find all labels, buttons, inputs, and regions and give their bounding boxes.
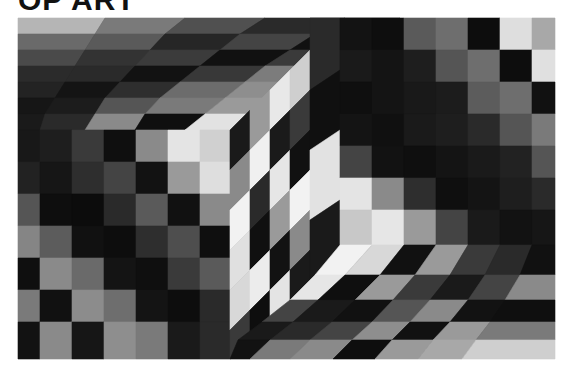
painting-cell — [136, 130, 168, 162]
painting-cell — [532, 18, 555, 50]
painting-cell — [340, 50, 372, 82]
painting-cell — [372, 146, 404, 178]
painting-cell — [404, 146, 436, 178]
painting-cell — [168, 322, 200, 359]
painting-cell — [40, 226, 72, 258]
painting-cell — [532, 114, 555, 146]
painting-cell — [72, 226, 104, 258]
painting-cell — [168, 162, 200, 194]
painting-cell — [18, 34, 95, 50]
painting-cell — [104, 290, 136, 322]
painting-cell — [404, 50, 436, 82]
painting-cell — [104, 258, 136, 290]
painting-cell — [500, 18, 532, 50]
painting-cell — [18, 194, 40, 226]
painting-cell — [404, 82, 436, 114]
painting-cell — [136, 194, 168, 226]
painting-cell — [436, 210, 468, 245]
painting-cell — [18, 322, 40, 359]
painting-cell — [436, 178, 468, 210]
painting-cell — [404, 18, 436, 50]
painting-cell — [136, 322, 168, 359]
painting-cell — [436, 50, 468, 82]
painting-cell — [72, 162, 104, 194]
painting-cells — [18, 18, 555, 359]
painting-cell — [168, 258, 200, 290]
painting-cell — [340, 18, 372, 50]
painting-cell — [18, 258, 40, 290]
painting-cell — [72, 194, 104, 226]
painting-cell — [340, 146, 372, 178]
painting-cell — [372, 114, 404, 146]
painting-cell — [340, 178, 372, 210]
painting-cell — [404, 114, 436, 146]
painting-cell — [404, 178, 436, 210]
painting-cell — [72, 322, 104, 359]
painting-cell — [168, 130, 200, 162]
painting-cell — [372, 82, 404, 114]
painting-cell — [340, 210, 372, 245]
painting-cell — [200, 290, 230, 322]
painting-cell — [468, 210, 500, 245]
painting-cell — [200, 194, 230, 226]
painting-cell — [340, 114, 372, 146]
painting-cell — [18, 18, 105, 34]
painting-cell — [532, 146, 555, 178]
painting-cell — [404, 210, 436, 245]
painting-cell — [500, 82, 532, 114]
op-art-painting — [0, 0, 571, 380]
painting-cell — [18, 50, 85, 66]
painting-cell — [168, 194, 200, 226]
painting-cell — [500, 178, 532, 210]
painting-cell — [200, 322, 230, 359]
painting-cell — [136, 258, 168, 290]
painting-cell — [104, 322, 136, 359]
painting-cell — [468, 18, 500, 50]
painting-cell — [136, 162, 168, 194]
painting-cell — [72, 130, 104, 162]
painting-cell — [40, 290, 72, 322]
painting-cell — [468, 50, 500, 82]
painting-cell — [200, 162, 230, 194]
painting-cell — [468, 146, 500, 178]
painting-cell — [532, 50, 555, 82]
painting-cell — [72, 258, 104, 290]
painting-cell — [200, 226, 230, 258]
painting-cell — [18, 226, 40, 258]
painting-cell — [40, 322, 72, 359]
painting-cell — [476, 322, 555, 340]
painting-cell — [168, 226, 200, 258]
painting-cell — [40, 130, 72, 162]
painting-cell — [45, 98, 105, 114]
painting-cell — [500, 146, 532, 178]
painting-cell — [436, 82, 468, 114]
painting-cell — [500, 50, 532, 82]
painting-cell — [372, 18, 404, 50]
painting-cell — [532, 210, 555, 245]
painting-cell — [500, 114, 532, 146]
painting-cell — [468, 114, 500, 146]
painting-cell — [436, 146, 468, 178]
painting-cell — [462, 340, 555, 359]
painting-cell — [18, 290, 40, 322]
painting-cell — [18, 130, 40, 162]
painting-cell — [532, 178, 555, 210]
painting-cell — [104, 162, 136, 194]
painting-cell — [500, 210, 532, 245]
painting-cell — [372, 210, 404, 245]
painting-cell — [468, 178, 500, 210]
painting-cell — [340, 82, 372, 114]
painting-cell — [136, 226, 168, 258]
painting-cell — [468, 82, 500, 114]
painting-cell — [532, 82, 555, 114]
painting-cell — [18, 162, 40, 194]
painting-cell — [72, 290, 104, 322]
painting-cell — [40, 162, 72, 194]
painting-cell — [372, 50, 404, 82]
painting-cell — [136, 290, 168, 322]
painting-cell — [372, 178, 404, 210]
painting-cell — [168, 290, 200, 322]
painting-cell — [104, 226, 136, 258]
painting-cell — [436, 114, 468, 146]
painting-cell — [104, 130, 136, 162]
